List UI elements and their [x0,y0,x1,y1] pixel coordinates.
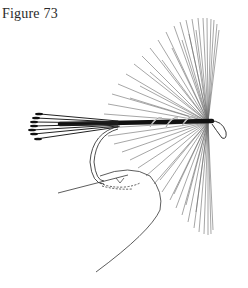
hackle-fibers [104,18,219,235]
thread-lines [58,170,161,272]
fly-illustration [0,0,248,288]
tail-tips [28,113,43,141]
